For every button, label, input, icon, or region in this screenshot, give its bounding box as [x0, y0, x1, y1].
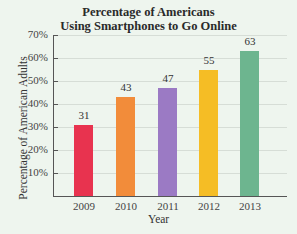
- y-tick-label: 30%: [14, 120, 48, 132]
- x-tick-label: 2013: [230, 200, 270, 212]
- bar-2012: [199, 70, 218, 196]
- y-axis: [53, 35, 54, 196]
- y-tick-label: 60%: [14, 51, 48, 63]
- bar-2010: [116, 97, 135, 196]
- x-axis: [53, 196, 287, 197]
- y-tick-label: 70%: [14, 28, 48, 40]
- y-tick-label: 20%: [14, 143, 48, 155]
- plot-area: Percentage of American Adults 10%20%30%4…: [0, 0, 297, 234]
- bar-value-label: 63: [235, 35, 265, 47]
- bar-2011: [158, 88, 177, 196]
- y-tick-label: 10%: [14, 166, 48, 178]
- y-tick-label: 40%: [14, 97, 48, 109]
- bar-value-label: 47: [153, 72, 183, 84]
- x-tick-label: 2011: [148, 200, 188, 212]
- bar-2013: [240, 51, 259, 196]
- x-tick-label: 2012: [189, 200, 229, 212]
- bar-value-label: 31: [69, 109, 99, 121]
- y-tick-label: 50%: [14, 74, 48, 86]
- x-tick-label: 2009: [64, 200, 104, 212]
- bar-2009: [74, 125, 93, 196]
- x-axis-label: Year: [148, 213, 169, 225]
- bar-value-label: 55: [194, 54, 224, 66]
- x-tick-label: 2010: [106, 200, 146, 212]
- bar-value-label: 43: [111, 81, 141, 93]
